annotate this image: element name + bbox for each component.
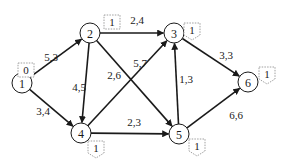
node-label: 3 [171,27,177,41]
edge-label-1-2: 5,3 [44,51,58,63]
edge-4-to-3 [88,41,167,126]
node-label: 5 [176,128,182,142]
tag-value: 1 [194,140,200,152]
node-6-tag: 1 [259,67,275,84]
edge-label-3-6: 3,3 [219,49,233,61]
node-3-tag: 1 [184,23,200,40]
node-3: 3 [164,23,184,43]
node-label: 6 [245,76,251,90]
node-label: 2 [87,27,93,41]
edge-label-1-4: 3,4 [36,105,50,117]
tag-value: 1 [93,142,99,154]
node-2-tag: 1 [104,15,120,29]
tag-value: 1 [264,68,270,80]
node-5: 5 [169,124,189,144]
edge-label-4-5: 2,3 [127,116,141,128]
node-4: 4 [71,123,91,143]
edge-label-2-3: 2,4 [130,14,144,26]
edge-label-5-3: 1,3 [179,73,193,85]
node-6: 6 [238,72,258,92]
tag-value: 1 [189,24,195,36]
network-graph: 5,33,42,44,52,65,72,31,33,36,6 123456 01… [0,0,288,167]
node-5-tag: 1 [189,139,205,156]
edge-label-2-5: 2,6 [107,69,121,81]
node-2: 2 [80,23,100,43]
tags-layer: 011111 [18,15,275,158]
node-label: 1 [19,77,25,91]
node-1-tag: 0 [18,63,34,77]
edge-label-5-6: 6,6 [229,109,243,121]
edge-label-2-4: 4,5 [72,81,86,93]
node-4-tag: 1 [88,141,104,158]
edge-4-to-5 [91,133,169,134]
tag-value: 0 [23,64,29,76]
edge-2-to-5 [97,41,172,127]
tag-value: 1 [109,16,115,28]
node-label: 4 [78,127,84,141]
edge-label-4-3: 5,7 [133,57,147,69]
edge-5-to-3 [175,43,179,124]
